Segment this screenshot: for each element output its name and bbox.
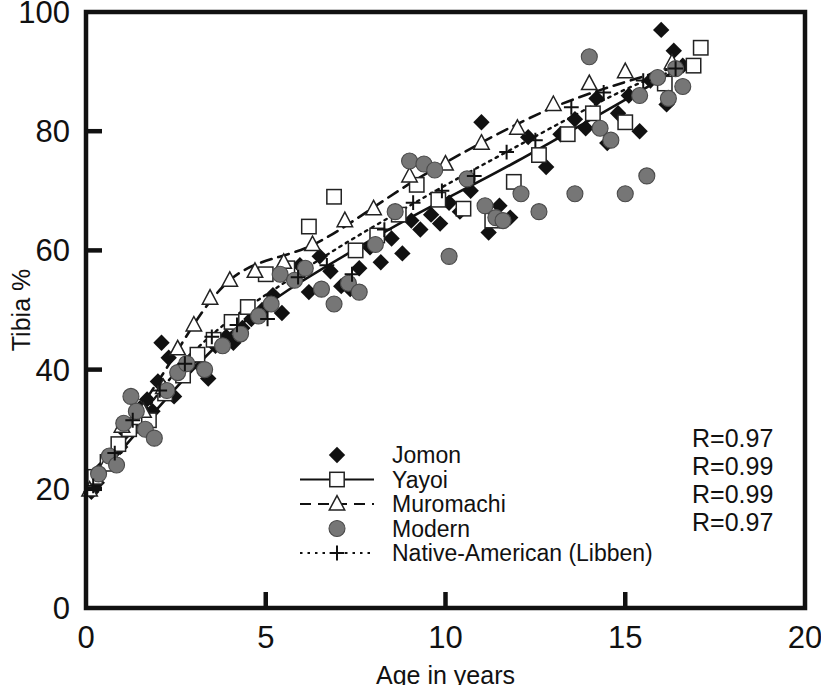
data-point: [581, 49, 597, 65]
axes: 02040608010005101520Age in yearsTibia %: [7, 0, 821, 685]
y-tick-label: 100: [18, 0, 70, 30]
legend-marker-plus: [330, 546, 345, 561]
data-point: [561, 127, 575, 141]
data-point: [578, 120, 594, 136]
data-point: [617, 186, 633, 202]
data-point: [474, 135, 489, 149]
y-tick-label: 20: [36, 472, 70, 507]
data-point: [473, 114, 489, 130]
data-point: [513, 186, 529, 202]
data-point: [631, 123, 647, 139]
legend-marker-open-square: [330, 472, 344, 486]
y-tick-label: 80: [36, 114, 70, 149]
data-point: [215, 338, 231, 354]
x-tick-label: 10: [428, 620, 462, 655]
r-value: R=0.99: [692, 452, 773, 480]
data-point: [302, 219, 316, 233]
data-point: [495, 213, 511, 229]
data-point: [109, 457, 125, 473]
data-point: [367, 236, 383, 252]
data-point: [313, 281, 329, 297]
x-axis-title: Age in years: [376, 661, 515, 685]
data-point: [373, 254, 389, 270]
data-point: [123, 388, 139, 404]
data-point: [348, 243, 362, 257]
data-point: [441, 248, 457, 264]
data-point: [337, 212, 352, 226]
r-value: R=0.97: [692, 508, 773, 536]
data-point: [632, 87, 648, 103]
data-point: [499, 145, 514, 160]
data-point: [402, 153, 418, 169]
data-point: [116, 415, 132, 431]
data-point: [128, 403, 144, 419]
data-point: [531, 204, 547, 220]
chart-figure: 02040608010005101520Age in yearsTibia %J…: [0, 0, 821, 685]
data-point: [233, 326, 249, 342]
data-point: [459, 171, 475, 187]
y-tick-label: 0: [53, 591, 70, 626]
data-point: [406, 195, 421, 210]
data-point: [586, 106, 600, 120]
data-point: [351, 284, 367, 300]
data-point: [272, 266, 288, 282]
data-point: [546, 96, 561, 110]
data-point: [567, 186, 583, 202]
data-point: [686, 58, 700, 72]
data-point: [456, 201, 470, 215]
legend: JomonYayoiMuromachiModernNative-American…: [300, 442, 653, 566]
data-point: [263, 296, 279, 312]
legend-label: Native-American (Libben): [392, 540, 653, 566]
data-point: [153, 335, 169, 351]
x-tick-label: 20: [788, 620, 821, 655]
legend-label: Jomon: [392, 442, 461, 468]
data-point: [660, 90, 676, 106]
data-point: [326, 296, 342, 312]
data-point: [639, 168, 655, 184]
r-value: R=0.99: [692, 480, 773, 508]
data-point: [618, 63, 633, 77]
legend-label: Yayoi: [392, 467, 448, 493]
legend-label: Modern: [392, 516, 470, 542]
data-point: [222, 272, 237, 286]
x-tick-label: 15: [608, 620, 642, 655]
data-point: [394, 245, 410, 261]
y-tick-label: 60: [36, 233, 70, 268]
x-tick-label: 5: [257, 620, 274, 655]
series-yayoi: [88, 41, 708, 485]
data-point: [402, 168, 417, 182]
data-point: [653, 22, 669, 38]
data-point: [582, 75, 597, 89]
data-point: [650, 70, 666, 86]
data-point: [532, 148, 546, 162]
data-point: [694, 41, 708, 55]
data-point: [327, 190, 341, 204]
data-point: [202, 290, 217, 304]
y-tick-label: 40: [36, 353, 70, 388]
data-point: [618, 115, 632, 129]
legend-label: Muromachi: [392, 491, 506, 517]
data-point: [146, 430, 162, 446]
legend-marker-open-triangle: [329, 496, 344, 510]
r-values: R=0.97R=0.99R=0.99R=0.97: [692, 424, 773, 536]
data-point: [297, 260, 313, 276]
scatter-plot: 02040608010005101520Age in yearsTibia %J…: [0, 0, 821, 685]
data-point: [675, 79, 691, 95]
r-value: R=0.97: [692, 424, 773, 452]
legend-marker-gray-circle: [329, 521, 345, 537]
data-point: [431, 193, 445, 207]
y-axis-title: Tibia %: [7, 269, 35, 351]
data-point: [251, 308, 267, 324]
legend-marker-filled-diamond: [329, 447, 345, 463]
data-point: [197, 362, 213, 378]
x-tick-label: 0: [77, 620, 94, 655]
data-point: [387, 204, 403, 220]
data-point: [603, 132, 619, 148]
data-point: [427, 162, 443, 178]
